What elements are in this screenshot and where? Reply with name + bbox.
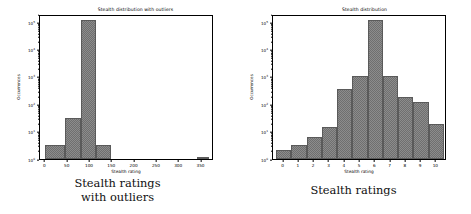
y-axis-tick-label: 104 xyxy=(22,47,35,53)
y-axis-minor-tick xyxy=(38,143,39,144)
panel-outliers: Stealth distribution with outliers Occur… xyxy=(0,0,235,214)
y-axis-minor-tick xyxy=(38,146,39,147)
y-axis-minor-tick xyxy=(271,88,272,89)
x-axis-tick xyxy=(44,160,45,163)
y-axis-minor-tick xyxy=(38,33,39,34)
x-axis-tick xyxy=(89,160,90,163)
y-axis-minor-tick xyxy=(38,133,39,134)
y-axis-minor-tick xyxy=(38,64,39,65)
histogram-bar xyxy=(398,97,413,159)
y-axis-minor-tick xyxy=(271,119,272,120)
y-axis-tick xyxy=(270,22,273,23)
chart-stealth-distribution: Stealth distribution Occurrences 1001011… xyxy=(236,0,471,170)
y-axis-tick xyxy=(37,104,40,105)
y-axis-minor-tick xyxy=(271,56,272,57)
y-axis-minor-tick xyxy=(38,42,39,43)
x-axis-tick-label: 6 xyxy=(373,163,376,168)
x-axis-tick-label: 0 xyxy=(43,163,46,168)
caption-line-2: with outliers xyxy=(0,190,235,204)
y-axis-minor-tick xyxy=(38,37,39,38)
y-axis-minor-tick xyxy=(271,115,272,116)
y-axis-minor-tick xyxy=(38,115,39,116)
panel-clean: Stealth distribution Occurrences 1001011… xyxy=(236,0,471,214)
y-axis-minor-tick xyxy=(38,80,39,81)
y-axis-minor-tick xyxy=(271,124,272,125)
y-axis-tick xyxy=(37,132,40,133)
x-axis-tick-label: 350 xyxy=(197,163,205,168)
y-axis-tick-label: 105 xyxy=(255,20,268,26)
x-axis-tick xyxy=(178,160,179,163)
y-axis-tick-label: 102 xyxy=(255,102,268,108)
y-axis-tick xyxy=(37,50,40,51)
y-axis-minor-tick xyxy=(38,56,39,57)
y-axis-tick xyxy=(270,77,273,78)
plot-area xyxy=(273,16,445,159)
y-axis-minor-tick xyxy=(271,109,272,110)
y-axis-minor-tick xyxy=(38,88,39,89)
figure-caption: Stealth ratings xyxy=(236,183,471,197)
y-axis-minor-tick xyxy=(271,69,272,70)
y-axis-minor-tick xyxy=(271,81,272,82)
histogram-bar xyxy=(413,102,428,159)
x-axis-tick xyxy=(374,160,375,163)
y-axis-minor-tick xyxy=(271,27,272,28)
x-axis-tick xyxy=(389,160,390,163)
y-axis-minor-tick xyxy=(271,85,272,86)
plot-frame xyxy=(39,15,213,160)
y-axis-tick xyxy=(270,50,273,51)
y-axis-minor-tick xyxy=(38,151,39,152)
histogram-bar xyxy=(429,124,444,158)
y-axis-minor-tick xyxy=(271,37,272,38)
y-axis-minor-tick xyxy=(271,135,272,136)
y-axis-minor-tick xyxy=(271,29,272,30)
y-axis-minor-tick xyxy=(38,61,39,62)
y-axis-tick-label: 104 xyxy=(255,47,268,53)
x-axis-tick-label: 7 xyxy=(388,163,391,168)
y-axis-minor-tick xyxy=(38,106,39,107)
x-axis-tick xyxy=(111,160,112,163)
y-axis-minor-tick xyxy=(38,51,39,52)
y-axis-minor-tick xyxy=(38,27,39,28)
x-axis-tick-label: 4 xyxy=(342,163,345,168)
x-axis-tick xyxy=(343,160,344,163)
y-axis-tick xyxy=(37,77,40,78)
y-axis-minor-tick xyxy=(271,107,272,108)
y-axis-minor-tick xyxy=(38,54,39,55)
y-axis-minor-tick xyxy=(271,24,272,25)
y-axis-tick-label: 103 xyxy=(22,74,35,80)
chart-title: Stealth distribution xyxy=(236,7,471,12)
y-axis-minor-tick xyxy=(271,113,272,114)
y-axis-tick xyxy=(37,159,40,160)
y-axis-minor-tick xyxy=(38,52,39,53)
y-axis-tick xyxy=(270,159,273,160)
y-axis-tick-label: 100 xyxy=(255,156,268,162)
y-axis-tick xyxy=(270,132,273,133)
y-axis-minor-tick xyxy=(271,106,272,107)
histogram-bar xyxy=(383,76,398,158)
y-axis-minor-tick xyxy=(38,113,39,114)
y-axis-minor-tick xyxy=(271,91,272,92)
y-axis-minor-tick xyxy=(271,61,272,62)
y-axis-minor-tick xyxy=(38,136,39,137)
y-axis-minor-tick xyxy=(38,69,39,70)
y-axis-minor-tick xyxy=(271,58,272,59)
y-axis-minor-tick xyxy=(271,143,272,144)
x-axis-title: Stealth rating xyxy=(111,169,140,174)
x-axis-tick-label: 300 xyxy=(174,163,182,168)
x-axis-tick-label: 50 xyxy=(64,163,69,168)
x-axis-tick xyxy=(133,160,134,163)
x-axis-tick xyxy=(282,160,283,163)
y-axis-minor-tick xyxy=(38,29,39,30)
y-axis-minor-tick xyxy=(271,51,272,52)
y-axis-minor-tick xyxy=(271,80,272,81)
chart-title: Stealth distribution with outliers xyxy=(0,7,235,12)
y-axis-tick-label: 101 xyxy=(255,129,268,135)
histogram-bar xyxy=(276,150,291,158)
y-axis-minor-tick xyxy=(38,138,39,139)
y-axis-minor-tick xyxy=(38,119,39,120)
histogram-bar xyxy=(45,145,65,158)
y-axis-minor-tick xyxy=(38,58,39,59)
x-axis-tick-label: 5 xyxy=(358,163,361,168)
x-axis-tick xyxy=(200,160,201,163)
y-axis-minor-tick xyxy=(271,138,272,139)
